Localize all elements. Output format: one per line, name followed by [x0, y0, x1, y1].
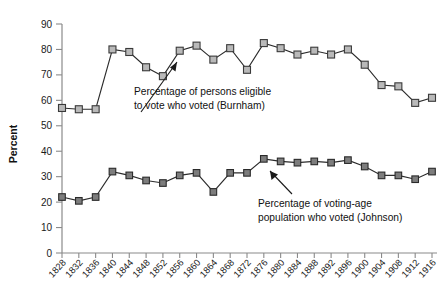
data-point-marker: [176, 47, 183, 54]
data-point-marker: [227, 170, 234, 177]
data-point-marker: [311, 47, 318, 54]
data-point-marker: [59, 194, 66, 201]
burnham-annotation-line-2: to vote who voted (Burnham): [134, 100, 265, 111]
data-point-marker: [260, 40, 267, 47]
data-point-marker: [294, 51, 301, 58]
data-point-marker: [344, 46, 351, 53]
data-point-marker: [294, 159, 301, 166]
data-point-marker: [378, 82, 385, 89]
y-tick-label: 60: [41, 95, 53, 106]
data-point-marker: [311, 158, 318, 165]
data-point-marker: [277, 158, 284, 165]
data-point-marker: [261, 156, 268, 163]
data-point-marker: [277, 45, 284, 52]
data-point-marker: [412, 99, 419, 106]
data-point-marker: [429, 94, 436, 101]
johnson-annotation-line-2: population who voted (Johnson): [258, 212, 402, 223]
data-point-marker: [395, 83, 402, 90]
johnson-annotation-line-1: Percentage of voting-age: [258, 198, 372, 209]
data-point-marker: [193, 170, 200, 177]
voter-turnout-line-chart: Percent 0102030405060708090 182818321836…: [0, 0, 443, 285]
data-point-marker: [126, 172, 133, 179]
data-point-marker: [395, 172, 402, 179]
data-point-marker: [412, 176, 419, 183]
data-point-marker: [109, 168, 116, 175]
y-tick-label: 70: [41, 69, 53, 80]
data-point-marker: [143, 177, 150, 184]
data-point-marker: [160, 180, 167, 187]
data-point-marker: [378, 172, 385, 179]
y-tick-label: 50: [41, 120, 53, 131]
data-point-marker: [361, 163, 368, 170]
data-point-marker: [345, 157, 352, 164]
data-point-marker: [361, 61, 368, 68]
data-point-marker: [126, 48, 133, 55]
data-point-marker: [328, 159, 335, 166]
data-point-marker: [176, 172, 183, 179]
chart-background: [0, 0, 443, 285]
y-tick-label: 30: [41, 171, 53, 182]
data-point-marker: [75, 106, 82, 113]
data-point-marker: [109, 46, 116, 53]
data-point-marker: [244, 170, 251, 177]
data-point-marker: [92, 106, 99, 113]
y-tick-label: 20: [41, 197, 53, 208]
data-point-marker: [143, 64, 150, 71]
data-point-marker: [59, 104, 66, 111]
chart-container: Percent 0102030405060708090 182818321836…: [0, 0, 443, 285]
y-tick-label: 80: [41, 44, 53, 55]
data-point-marker: [244, 66, 251, 73]
y-axis-title: Percent: [7, 124, 19, 163]
burnham-annotation-line-1: Percentage of persons eligible: [134, 86, 271, 97]
data-point-marker: [328, 51, 335, 58]
data-point-marker: [92, 194, 99, 201]
data-point-marker: [210, 56, 217, 63]
data-point-marker: [76, 198, 83, 205]
y-tick-label: 0: [46, 248, 52, 259]
data-point-marker: [429, 168, 436, 175]
y-tick-label: 10: [41, 222, 53, 233]
data-point-marker: [193, 42, 200, 49]
data-point-marker: [210, 189, 217, 196]
y-tick-label: 90: [41, 19, 53, 30]
y-tick-label: 40: [41, 146, 53, 157]
data-point-marker: [227, 45, 234, 52]
